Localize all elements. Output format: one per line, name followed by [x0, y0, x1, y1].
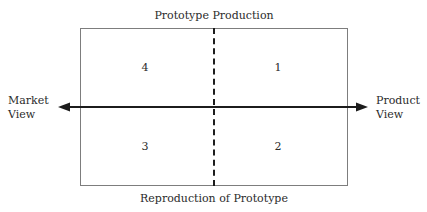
left-axis-label-line2: View — [8, 108, 56, 122]
quadrant-label-top-left: 4 — [134, 62, 156, 74]
matrix-diagram: Prototype Production 4 1 3 2 Market View… — [0, 0, 427, 212]
right-axis-label: Product View — [376, 94, 426, 122]
top-axis-label: Prototype Production — [80, 9, 348, 22]
horizontal-axis-arrow — [52, 96, 374, 118]
quadrant-label-bottom-left: 3 — [134, 141, 156, 153]
left-axis-label: Market View — [8, 94, 56, 122]
quadrant-label-bottom-right: 2 — [267, 141, 289, 153]
bottom-axis-label: Reproduction of Prototype — [80, 192, 348, 205]
right-axis-label-line1: Product — [376, 94, 426, 108]
right-axis-label-line2: View — [376, 108, 426, 122]
left-axis-label-line1: Market — [8, 94, 56, 108]
quadrant-label-top-right: 1 — [267, 62, 289, 74]
